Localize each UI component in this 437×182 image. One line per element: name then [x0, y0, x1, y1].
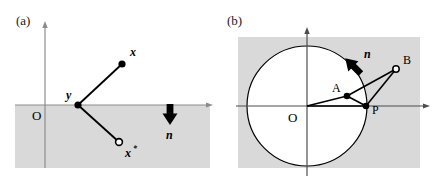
panel-a-y-axis-arrowhead — [42, 21, 47, 28]
panel-b-x-axis-arrowhead — [423, 103, 430, 108]
panel-b-point-P-marker — [363, 103, 370, 110]
panel-a-origin-label: O — [32, 108, 41, 123]
panel-b-point-B-label: B — [403, 53, 411, 67]
panel-b-point-A-label: A — [332, 81, 341, 95]
panel-b-normal-label: n — [364, 47, 371, 61]
figure-container: (a) (b) x y x * O n — [0, 0, 437, 182]
panel-a-point-y-label: y — [64, 88, 72, 102]
panel-b-point-B-marker — [393, 66, 399, 72]
panel-a-point-x-marker — [118, 60, 125, 67]
panel-a-point-y-marker — [74, 101, 81, 108]
panel-a-point-xstar-label: x — [124, 146, 131, 160]
figure-svg: x y x * O n A P B — [0, 0, 437, 182]
panel-b-y-axis-arrowhead — [304, 27, 309, 34]
panel-a-normal-label: n — [166, 128, 173, 142]
panel-a-point-x-label: x — [129, 45, 136, 59]
panel-a-point-xstar-marker — [116, 139, 123, 146]
panel-a-segment-y-x — [78, 64, 122, 105]
panel-b-point-P-label: P — [372, 103, 379, 117]
panel-b-point-A-marker — [344, 93, 351, 100]
panel-b-origin-label: O — [288, 110, 297, 125]
